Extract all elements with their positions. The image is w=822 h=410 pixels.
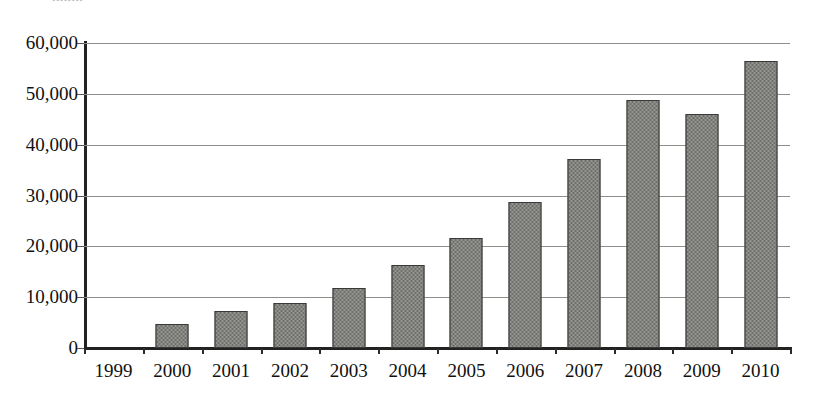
bar (332, 288, 365, 348)
bar-slot (496, 43, 555, 348)
x-axis-tick-label: 2003 (330, 360, 368, 382)
bar-slot (319, 43, 378, 348)
bar (450, 238, 483, 348)
bar-slot (84, 43, 143, 348)
x-axis-tick-label: 2005 (447, 360, 485, 382)
x-axis-tick-label: 2006 (506, 360, 544, 382)
x-axis-tick-label: 2010 (742, 360, 780, 382)
x-axis-tick (84, 348, 86, 354)
y-axis-tick (77, 145, 84, 146)
y-axis-tick (77, 246, 84, 247)
bar-slot (437, 43, 496, 348)
bar (568, 159, 601, 348)
y-axis-tick (77, 348, 84, 349)
x-axis-tick (614, 348, 616, 354)
bar-slot (555, 43, 614, 348)
bar (156, 324, 189, 348)
y-axis-tick-label: 40,000 (4, 135, 78, 154)
bar-slot (261, 43, 320, 348)
x-axis-tick-label: 2004 (389, 360, 427, 382)
bar (215, 311, 248, 348)
y-axis-tick-label: 30,000 (4, 186, 78, 205)
bar (685, 114, 718, 348)
y-axis-tick-label: 0 (4, 338, 78, 357)
x-axis-tick-label: 2001 (212, 360, 250, 382)
x-axis-tick-label: 2002 (271, 360, 309, 382)
y-axis-tick (77, 196, 84, 197)
y-axis-tick-label: 50,000 (4, 84, 78, 103)
bar (744, 61, 777, 348)
y-axis-tick-label: 20,000 (4, 236, 78, 255)
x-axis-tick-label: 1999 (94, 360, 132, 382)
x-axis-tick (261, 348, 263, 354)
y-axis-labels: 010,00020,00030,00040,00050,00060,000 (0, 0, 78, 410)
x-axis-tick (378, 348, 380, 354)
x-axis-tick (672, 348, 674, 354)
clipped-caption: ........ (52, 0, 302, 3)
bar-slot (378, 43, 437, 348)
x-axis-tick (496, 348, 498, 354)
bar (391, 265, 424, 348)
x-axis-tick (319, 348, 321, 354)
x-axis-tick (790, 348, 792, 354)
bar (273, 303, 306, 348)
x-axis-tick-label: 2007 (565, 360, 603, 382)
x-axis-tick (731, 348, 733, 354)
bar-slot (614, 43, 673, 348)
x-axis-tick-label: 2000 (153, 360, 191, 382)
bar-slot (202, 43, 261, 348)
bar-slot (672, 43, 731, 348)
x-axis-tick (555, 348, 557, 354)
bar-chart-figure: ........ 010,00020,00030,00040,00050,000… (0, 0, 822, 410)
x-axis-tick-label: 2008 (624, 360, 662, 382)
y-axis-tick (77, 94, 84, 95)
y-axis-tick-label: 10,000 (4, 287, 78, 306)
x-axis-tick (202, 348, 204, 354)
x-axis-tick (437, 348, 439, 354)
plot-area (84, 43, 790, 348)
y-axis-tick-label: 60,000 (4, 33, 78, 52)
bar-slot (731, 43, 790, 348)
x-axis-tick (143, 348, 145, 354)
bar (509, 202, 542, 348)
bar (626, 100, 659, 348)
x-axis-tick-label: 2009 (683, 360, 721, 382)
y-axis-tick (77, 43, 84, 44)
y-axis-tick (77, 297, 84, 298)
bar-slot (143, 43, 202, 348)
